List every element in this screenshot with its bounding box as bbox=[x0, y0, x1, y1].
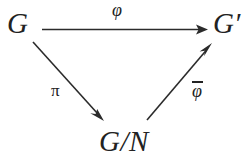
arrow-phi bbox=[42, 25, 208, 35]
overline-phi-glyph: φ bbox=[192, 80, 202, 100]
arrow-label-pi: π bbox=[51, 82, 60, 99]
quotient-numerator: G bbox=[99, 125, 120, 157]
arrow-label-phi: φ bbox=[112, 1, 122, 19]
quotient-denominator: N bbox=[129, 125, 148, 157]
arrow-pi-shaft bbox=[33, 42, 98, 114]
node-label-target: G′ bbox=[213, 9, 240, 38]
quotient-slash: / bbox=[120, 125, 129, 157]
arrow-label-phibar: φ bbox=[192, 80, 202, 100]
node-label-quotient: G/N bbox=[99, 127, 148, 156]
commutative-diagram: G G′ G/N φ π φ bbox=[0, 0, 249, 163]
arrow-pi bbox=[33, 42, 104, 121]
arrow-pi-head bbox=[90, 109, 104, 121]
node-label-source: G bbox=[7, 9, 28, 38]
arrow-phibar-head bbox=[200, 43, 212, 56]
